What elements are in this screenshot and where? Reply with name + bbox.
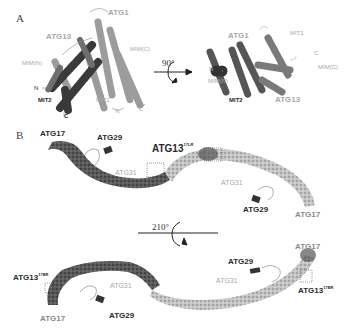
atg17-complex-surface-bottom bbox=[45, 248, 316, 310]
label-atg29-bottom-right: ATG29 bbox=[228, 257, 253, 266]
label-atg13-17lr: ATG1317LR bbox=[152, 143, 193, 154]
label-n-terminus-side: N bbox=[209, 66, 213, 72]
panel-b-letter: B bbox=[16, 129, 23, 141]
label-mit1-side: MIT1 bbox=[290, 30, 304, 36]
label-mim-c-side: MIM(C) bbox=[318, 64, 338, 70]
label-atg29-bottom-left: ATG29 bbox=[109, 311, 134, 320]
label-atg13-17br-right: ATG1317BR bbox=[298, 286, 333, 295]
panel-a-letter: A bbox=[16, 12, 24, 24]
label-mit1-front: MIT1 bbox=[96, 97, 110, 103]
rotation-arrow-210 bbox=[138, 222, 218, 246]
rotation-angle-210: 210° bbox=[152, 222, 169, 232]
label-atg13-front: ATG13 bbox=[46, 32, 71, 41]
label-atg31-top-right: ATG31 bbox=[221, 179, 243, 186]
label-atg31-bottom-right: ATG31 bbox=[216, 277, 238, 284]
label-atg17-top-left: ATG17 bbox=[40, 129, 65, 138]
label-mim-n-side: MIM(N) bbox=[208, 78, 228, 84]
label-atg29-top-right: ATG29 bbox=[243, 205, 268, 214]
rotation-angle-90: 90° bbox=[162, 58, 175, 68]
atg1-atg13-complex-side-view bbox=[210, 26, 296, 95]
label-atg13-17br-left: ATG1317BR bbox=[13, 273, 48, 282]
label-atg17-bottom-left: ATG17 bbox=[40, 314, 65, 323]
label-atg13-side: ATG13 bbox=[275, 95, 300, 104]
label-atg17-top-right: ATG17 bbox=[295, 210, 320, 219]
figure-graphics bbox=[0, 0, 355, 334]
label-atg31-top-left: ATG31 bbox=[115, 169, 137, 176]
label-mit2-side: MIT2 bbox=[229, 97, 243, 103]
label-mim-n-front: MIM(N) bbox=[22, 60, 42, 66]
label-n-terminus-mit1: N bbox=[115, 108, 119, 114]
label-mit2-front: MIT2 bbox=[38, 97, 52, 103]
label-atg1-side: ATG1 bbox=[228, 31, 249, 40]
label-c-terminus-side: C bbox=[314, 50, 318, 56]
label-atg17-bottom-right: ATG17 bbox=[295, 242, 320, 251]
label-c-terminus-mit2: C bbox=[64, 113, 68, 119]
atg1-atg13-complex-front-view bbox=[42, 9, 145, 118]
label-n-terminus-left: N bbox=[34, 85, 38, 91]
label-atg31-bottom-left: ATG31 bbox=[110, 282, 132, 289]
label-atg1-front: ATG1 bbox=[108, 8, 129, 17]
label-atg29-top-left: ATG29 bbox=[97, 133, 122, 142]
label-c-terminus-right: C bbox=[139, 106, 143, 112]
label-mim-c-front: MIM(C) bbox=[130, 46, 150, 52]
